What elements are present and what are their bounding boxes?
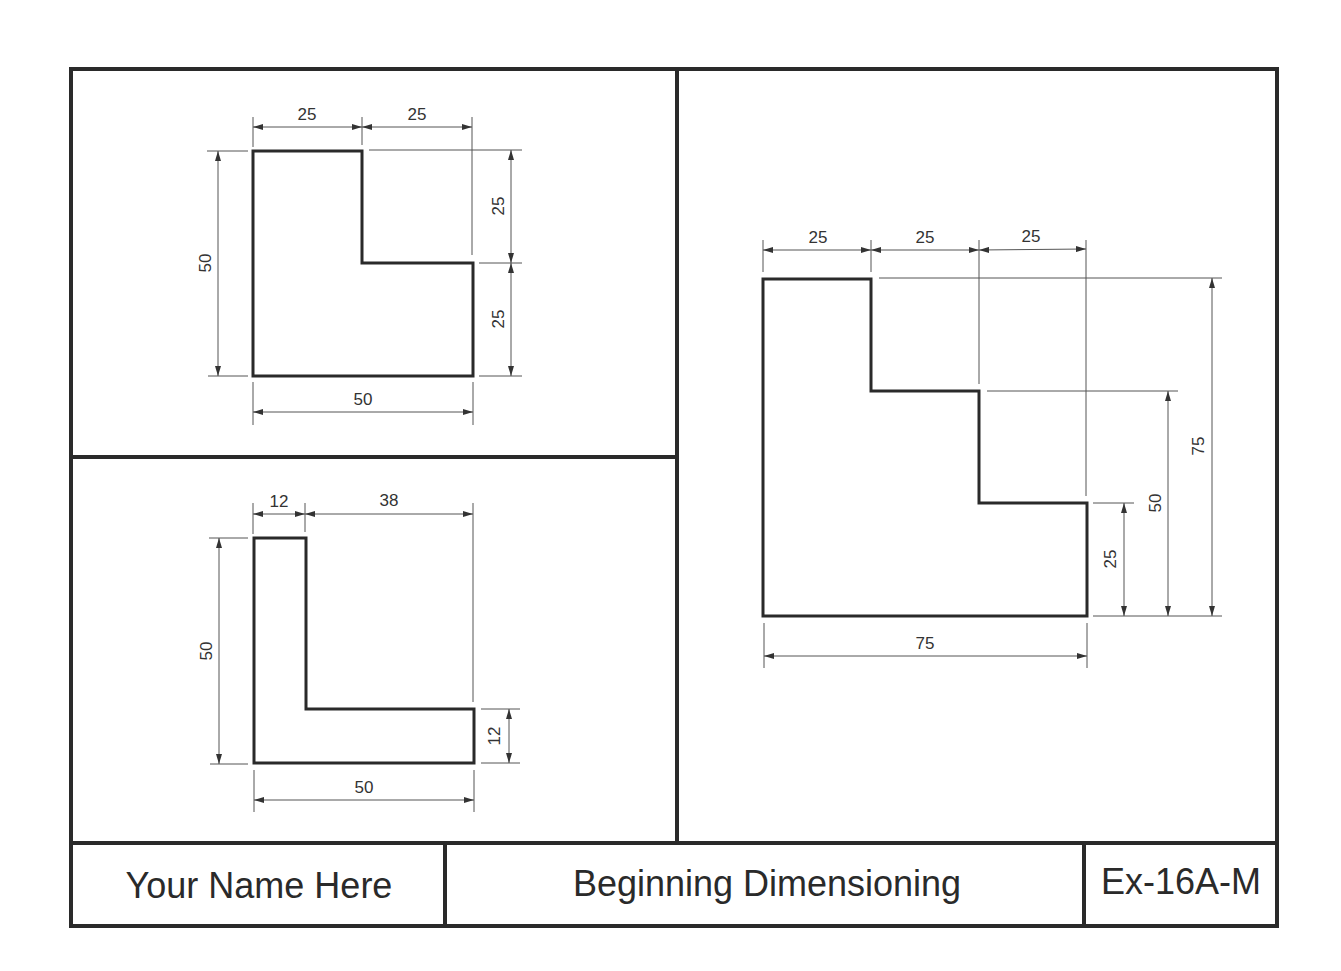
object-outline	[763, 279, 1087, 616]
view-bottom-left: 12 38 50 12 50	[197, 491, 520, 812]
dim-text: 50	[1146, 494, 1165, 513]
dim-text: 25	[1101, 550, 1120, 569]
view-right: 25 25 25 25 50 75 75	[763, 227, 1222, 668]
dim-text: 25	[1022, 227, 1041, 246]
drawing-title: Beginning Dimensioning	[573, 863, 961, 904]
dim-text: 25	[298, 105, 317, 124]
dim-text: 50	[196, 254, 215, 273]
student-name: Your Name Here	[126, 865, 393, 906]
drawing-number: Ex-16A-M	[1101, 861, 1261, 902]
view-top-left: 25 25 50 25 25 50	[196, 105, 522, 425]
dim-text: 12	[270, 492, 289, 511]
dim-text: 75	[916, 634, 935, 653]
dim-text: 12	[485, 727, 504, 746]
dim-text: 38	[380, 491, 399, 510]
dim-text: 50	[197, 642, 216, 661]
dim-text: 50	[355, 778, 374, 797]
dim-text: 25	[408, 105, 427, 124]
drawing-sheet: Your Name Here Beginning Dimensioning Ex…	[0, 0, 1341, 971]
object-outline	[254, 538, 474, 763]
dim-text: 25	[809, 228, 828, 247]
dim-text: 25	[489, 197, 508, 216]
object-outline	[253, 151, 473, 376]
dim-text: 75	[1189, 437, 1208, 456]
dim-text: 25	[489, 310, 508, 329]
title-block: Your Name Here Beginning Dimensioning Ex…	[126, 861, 1261, 906]
dim-text: 25	[916, 228, 935, 247]
dim-text: 50	[354, 390, 373, 409]
